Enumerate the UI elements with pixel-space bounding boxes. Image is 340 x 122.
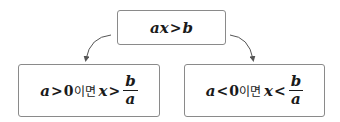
numerator: b	[123, 73, 138, 91]
var-a: a	[150, 19, 160, 37]
zero: 0	[229, 83, 239, 99]
positive-case-expression: a>0이면x> ba	[40, 73, 137, 108]
denominator: a	[126, 91, 136, 108]
var-b: b	[182, 19, 193, 37]
operator: >	[51, 83, 63, 99]
condition-word: 이면	[74, 82, 96, 99]
var-x: x	[264, 82, 273, 100]
arrow-left	[86, 35, 111, 59]
negative-case-box: a<0이면x< ba	[184, 64, 325, 117]
fraction: ba	[123, 73, 138, 108]
arrow-right	[230, 35, 253, 59]
operator: <	[217, 83, 229, 99]
operator: >	[108, 83, 120, 99]
operator: <	[274, 83, 286, 99]
inequality-expression: ax>b	[150, 19, 193, 37]
var-x: x	[99, 82, 108, 100]
negative-case-expression: a<0이면x< ba	[206, 73, 303, 108]
positive-case-box: a>0이면x> ba	[18, 64, 160, 117]
numerator: b	[289, 73, 304, 91]
var-x: x	[160, 19, 169, 37]
operator: >	[170, 20, 182, 36]
var-a: a	[40, 82, 50, 100]
top-inequality-box: ax>b	[117, 10, 226, 45]
condition-word: 이면	[239, 82, 261, 99]
fraction: ba	[289, 73, 304, 108]
var-a: a	[206, 82, 216, 100]
denominator: a	[291, 91, 301, 108]
zero: 0	[64, 83, 74, 99]
